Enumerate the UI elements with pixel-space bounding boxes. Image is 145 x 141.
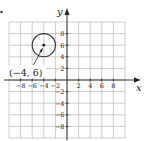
y-tick-label: 4 [60,53,64,61]
y-axis-arrow-icon [65,8,70,15]
bullet-dot [0,11,2,13]
y-tick-label: 8 [60,30,64,38]
x-tick-label: −6 [27,82,37,90]
y-axis-label: y [56,6,63,17]
coordinate-plane: x y −8−6−4−224688642−2−4−6−8 (−4, 6) [0,0,145,141]
y-tick-label: −2 [55,88,65,96]
x-axis-label: x [136,82,142,93]
y-tick-label: −4 [55,100,65,108]
x-tick-label: −8 [16,82,26,90]
center-point-label: (−4, 6) [9,67,43,78]
center-point [42,44,45,47]
y-tick-label: −8 [55,123,65,131]
x-tick-label: −4 [39,82,49,90]
y-tick-label: −6 [55,111,65,119]
x-tick-label: 8 [111,82,115,90]
y-tick-label: 2 [60,65,64,73]
x-tick-label: 2 [77,82,81,90]
x-tick-label: 6 [100,82,104,90]
x-tick-label: 4 [88,82,92,90]
leader-arrow-icon [40,48,44,53]
y-tick-label: 6 [60,42,64,50]
